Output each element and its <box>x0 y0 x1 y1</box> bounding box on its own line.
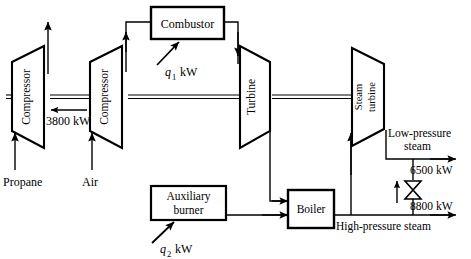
boiler[interactable]: Boiler <box>288 190 334 228</box>
combustor-heat-symbol: q <box>165 65 171 79</box>
burner-heat-symbol: q <box>160 242 166 256</box>
combustor-to-turbine-line <box>224 22 238 64</box>
turbine[interactable]: Turbine <box>240 46 270 148</box>
compressor2-to-combustor-line <box>126 22 151 72</box>
shaft-work-label: 3800 kW <box>46 114 91 128</box>
burner-heat-unit: kW <box>175 242 193 256</box>
hp-steam-energy-label: 8800 kW <box>410 200 453 212</box>
diagram-canvas: Compressor Compressor Combustor Turbine … <box>0 0 471 259</box>
compressor-2-label: Compressor <box>98 69 111 125</box>
lp-steam-energy-label: 6500 kW <box>410 164 453 176</box>
combustor-heat-unit: kW <box>180 65 198 79</box>
combustor[interactable]: Combustor <box>151 7 224 39</box>
low-pressure-steam-label-line1: Low-pressure <box>388 127 451 140</box>
valve[interactable] <box>405 181 421 199</box>
turbine-label: Turbine <box>245 79 257 115</box>
air-label: Air <box>82 175 98 189</box>
auxiliary-burner-label-line1: Auxiliary <box>166 190 210 203</box>
valve-body <box>405 181 421 199</box>
auxiliary-burner[interactable]: Auxiliary burner <box>151 186 226 220</box>
burner-heat-arrow <box>152 222 174 243</box>
compressor-2[interactable]: Compressor <box>90 46 122 148</box>
turbine-exhaust-to-boiler-line <box>270 128 286 201</box>
boiler-label: Boiler <box>297 203 326 215</box>
compressor-1-label: Compressor <box>20 69 33 125</box>
combustor-heat-subscript: 1 <box>172 72 176 82</box>
steam-turbine-label-line2: turbine <box>366 82 377 112</box>
combustor-label: Combustor <box>161 17 214 31</box>
compressor-1[interactable]: Compressor <box>12 46 44 148</box>
steam-turbine-label-line1: Steam <box>353 84 364 110</box>
propane-label: Propane <box>3 175 42 189</box>
burner-heat-label: q 2 kW <box>160 242 193 259</box>
high-pressure-steam-label: High-pressure steam <box>336 220 431 233</box>
steam-turbine[interactable]: Steam turbine <box>352 48 384 146</box>
auxiliary-burner-label-line2: burner <box>173 204 203 216</box>
combustor-heat-arrow <box>157 42 179 65</box>
low-pressure-steam-label-line2: steam <box>404 140 431 152</box>
combustor-heat-label: q 1 kW <box>165 65 198 82</box>
burner-heat-subscript: 2 <box>167 249 171 259</box>
process-flow-diagram: Compressor Compressor Combustor Turbine … <box>0 0 471 259</box>
